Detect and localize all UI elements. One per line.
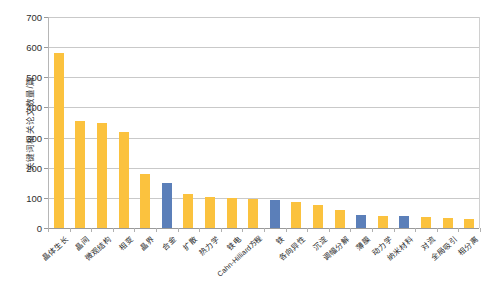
x-tick-mark	[48, 228, 49, 232]
x-axis-label: 铁	[273, 233, 286, 247]
x-tick-mark	[286, 228, 287, 232]
x-tick-mark	[199, 228, 200, 232]
x-tick-mark	[350, 228, 351, 232]
x-tick-mark	[113, 228, 114, 232]
x-tick-mark	[372, 228, 373, 232]
x-tick-mark	[307, 228, 308, 232]
x-axis-label: 相变	[116, 233, 135, 252]
x-axis-label: 热力学	[196, 233, 221, 257]
x-tick-mark	[264, 228, 265, 232]
x-tick-mark	[480, 228, 481, 232]
x-tick-mark	[329, 228, 330, 232]
x-tick-mark	[415, 228, 416, 232]
x-tick-mark	[221, 228, 222, 232]
bar-chart: 关键词相关论文数量/篇 0100200300400500600700 晶体生长晶…	[0, 0, 494, 298]
x-tick-mark	[394, 228, 395, 232]
x-axis-label: 晶体生长	[39, 233, 70, 263]
x-tick-mark	[437, 228, 438, 232]
x-axis-label: 合金	[159, 233, 178, 252]
x-tick-mark	[156, 228, 157, 232]
x-tick-mark	[91, 228, 92, 232]
x-tick-mark	[242, 228, 243, 232]
x-tick-mark	[134, 228, 135, 232]
x-tick-mark	[458, 228, 459, 232]
x-tick-mark	[70, 228, 71, 232]
x-axis-label: 晶界	[137, 233, 156, 252]
x-axis-labels: 晶体生长晶间微观结构相变晶界合金扩散热力学铁电Cahn-Hilliard方程铁各…	[0, 0, 494, 298]
x-axis-label: 相分离	[455, 233, 480, 257]
x-tick-mark	[178, 228, 179, 232]
